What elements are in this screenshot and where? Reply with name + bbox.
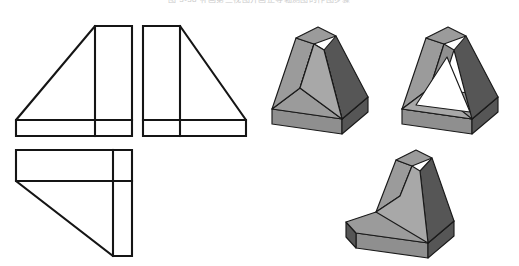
isometric-solid-hollow <box>402 27 498 134</box>
isometric-solid-filled <box>272 27 368 134</box>
isometric-pictorials-group <box>0 0 519 266</box>
engineering-drawing-figure: 图 3-38 补画第三视图并画正等轴测图的作图步骤 <box>0 0 519 266</box>
isometric-solid-rib-on-base <box>346 150 454 258</box>
